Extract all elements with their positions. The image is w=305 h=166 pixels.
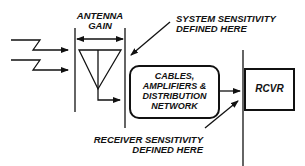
antenna-icon — [79, 50, 121, 89]
receiver-sensitivity-label: RECEIVER SENSITIVITY DEFINED HERE — [80, 135, 203, 155]
antenna-gain-label: ANTENNA GAIN — [72, 11, 128, 31]
network-line-3: DISTRIBUTION — [130, 91, 219, 101]
system-sensitivity-line-2: DEFINED HERE — [176, 24, 276, 34]
antenna-gain-line-2: GAIN — [72, 21, 128, 31]
network-box-label: CABLES, AMPLIFIERS & DISTRIBUTION NETWOR… — [130, 71, 219, 111]
incoming-signal-arrow-1 — [11, 40, 68, 50]
receiver-sensitivity-line-2: DEFINED HERE — [80, 145, 203, 155]
receiver-box-label: RCVR — [245, 84, 294, 94]
network-line-2: AMPLIFIERS & — [130, 81, 219, 91]
network-line-1: CABLES, — [130, 71, 219, 81]
system-sensitivity-label: SYSTEM SENSITIVITY DEFINED HERE — [176, 14, 276, 34]
system-sensitivity-pointer — [131, 22, 170, 55]
incoming-signal-arrow-2 — [11, 60, 68, 70]
network-line-4: NETWORK — [130, 101, 219, 111]
